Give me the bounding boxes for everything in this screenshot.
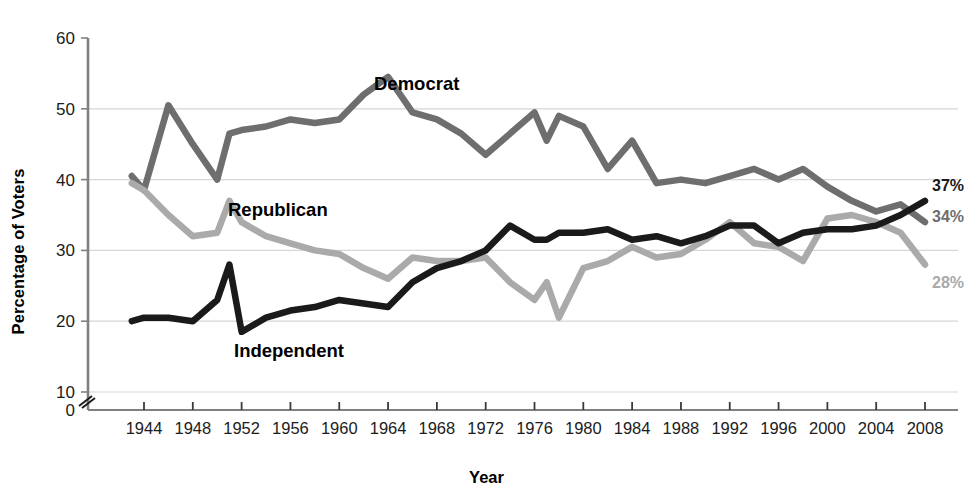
x-tick-label: 2008 [907, 419, 944, 437]
x-tick-label: 1964 [370, 419, 407, 437]
x-tick-label: 1960 [321, 419, 358, 437]
y-tick-label: 10 [56, 383, 75, 402]
series-line-independent [132, 201, 925, 332]
x-tick-label: 2000 [809, 419, 846, 437]
end-label-independent: 37% [932, 177, 964, 194]
x-tick-label: 1980 [565, 419, 602, 437]
x-tick-label: 1956 [272, 419, 309, 437]
x-tick-label: 1992 [711, 419, 748, 437]
y-axis-ticks: 0102030405060 [56, 29, 88, 420]
series-label-independent: Independent [234, 340, 344, 361]
y-tick-label: 30 [56, 241, 75, 260]
y-tick-label: 60 [56, 29, 75, 48]
x-tick-label: 2004 [858, 419, 895, 437]
chart-container: 1944194819521956196019641968197219761980… [0, 0, 973, 503]
end-label-democrat: 34% [932, 208, 964, 225]
y-tick-label: 40 [56, 171, 75, 190]
series-label-democrat: Democrat [374, 73, 459, 94]
x-tick-label: 1988 [663, 419, 700, 437]
x-tick-label: 1948 [174, 419, 211, 437]
x-tick-label: 1984 [614, 419, 651, 437]
end-label-republican: 28% [932, 274, 964, 291]
x-tick-label: 1976 [516, 419, 553, 437]
end-value-labels: 37%34%28% [932, 177, 964, 291]
y-tick-label: 0 [66, 401, 75, 420]
x-tick-label: 1972 [467, 419, 504, 437]
x-tick-label: 1968 [419, 419, 456, 437]
x-tick-label: 1952 [223, 419, 260, 437]
series-label-republican: Republican [228, 199, 328, 220]
x-axis-title: Year [0, 468, 973, 487]
y-tick-label: 50 [56, 100, 75, 119]
voter-affiliation-line-chart: 1944194819521956196019641968197219761980… [0, 0, 973, 503]
y-axis-title-text: Percentage of Voters [10, 169, 29, 335]
x-axis-ticks: 1944194819521956196019641968197219761980… [126, 402, 944, 437]
y-tick-label: 20 [56, 312, 75, 331]
gridlines [88, 109, 958, 392]
x-tick-label: 1996 [760, 419, 797, 437]
x-tick-label: 1944 [126, 419, 163, 437]
y-axis-title: Percentage of Voters [2, 0, 36, 503]
